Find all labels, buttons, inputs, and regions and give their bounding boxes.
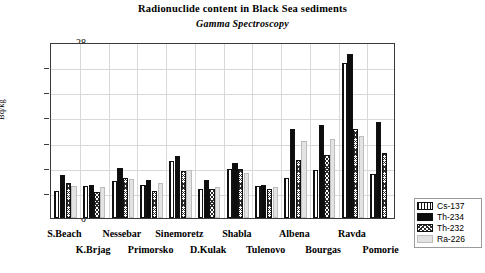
y-tick-mark <box>44 144 49 145</box>
x-tick-label-pomorie: Pomorie <box>341 244 421 255</box>
bar-group <box>281 44 310 218</box>
bar-th-232-s-beach <box>66 183 71 218</box>
bar-group <box>137 44 166 218</box>
bar-th-232-primorsko <box>152 191 157 218</box>
x-tick-label-ravda: Ravda <box>312 228 392 239</box>
bar-group <box>252 44 281 218</box>
bar-ra-226-primorsko <box>158 183 163 218</box>
chart-figure: Radionuclide content in Black Sea sedime… <box>0 0 485 273</box>
y-tick-mark <box>44 118 49 119</box>
bar-th-234-ravda <box>347 54 352 218</box>
bar-ra-226-tulenovo <box>273 187 278 218</box>
legend-label: Ra-226 <box>437 235 465 244</box>
bar-th-232-sinemoretz <box>181 171 186 218</box>
bar-ra-226-albena <box>301 141 306 218</box>
bar-cs-137-s-beach <box>54 191 59 218</box>
bar-th-232-nessebar <box>123 178 128 218</box>
bar-cs-137-bourgas <box>313 170 318 218</box>
legend-swatch-th-234 <box>417 213 433 221</box>
bar-th-234-tulenovo <box>261 185 266 218</box>
legend-swatch-ra-226 <box>417 235 433 243</box>
bar-th-232-d-kulak <box>209 189 214 218</box>
bar-cs-137-sinemoretz <box>169 161 174 218</box>
bar-th-234-s-beach <box>60 175 65 218</box>
bar-cs-137-tulenovo <box>255 186 260 218</box>
bar-group <box>166 44 195 218</box>
bar-ra-226-ravda <box>359 136 364 218</box>
y-tick-mark <box>44 93 49 94</box>
bar-th-232-albena <box>296 160 301 218</box>
bar-th-234-d-kulak <box>204 180 209 218</box>
bar-ra-226-sinemoretz <box>186 170 191 218</box>
bar-group <box>51 44 80 218</box>
bar-th-232-pomorie <box>382 153 387 218</box>
y-tick-mark <box>44 194 49 195</box>
bar-cs-137-k-brjag <box>83 186 88 218</box>
bar-cs-137-primorsko <box>140 185 145 218</box>
y-tick-mark <box>44 169 49 170</box>
chart-legend: Cs-137Th-234Th-232Ra-226 <box>414 198 482 248</box>
bar-cs-137-d-kulak <box>198 189 203 218</box>
chart-subtitle: Gamma Spectroscopy <box>0 18 485 29</box>
bar-cs-137-pomorie <box>370 174 375 218</box>
legend-item-th-232: Th-232 <box>417 223 479 233</box>
bar-group <box>367 44 396 218</box>
bar-th-234-shabla <box>232 163 237 218</box>
legend-item-ra-226: Ra-226 <box>417 234 479 244</box>
bar-ra-226-shabla <box>244 173 249 218</box>
bar-ra-226-k-brjag <box>100 187 105 218</box>
bar-cs-137-ravda <box>342 63 347 218</box>
bar-group <box>310 44 339 218</box>
bar-group <box>195 44 224 218</box>
bar-th-234-albena <box>290 129 295 218</box>
bar-th-234-primorsko <box>146 180 151 218</box>
y-tick-mark <box>44 68 49 69</box>
legend-label: Th-232 <box>437 224 464 233</box>
bar-th-234-bourgas <box>319 125 324 218</box>
bar-th-234-k-brjag <box>89 185 94 218</box>
bar-cs-137-shabla <box>227 169 232 218</box>
plot-area <box>50 43 395 219</box>
bar-group <box>224 44 253 218</box>
bar-cs-137-nessebar <box>112 181 117 218</box>
bar-th-234-sinemoretz <box>175 156 180 218</box>
legend-swatch-cs-137 <box>417 202 433 210</box>
bar-th-234-nessebar <box>117 168 122 218</box>
bar-ra-226-s-beach <box>71 186 76 218</box>
bar-ra-226-nessebar <box>129 179 134 218</box>
bar-group <box>109 44 138 218</box>
bar-group <box>80 44 109 218</box>
bar-th-232-bourgas <box>324 155 329 218</box>
legend-label: Th-234 <box>437 213 464 222</box>
bar-th-234-pomorie <box>376 122 381 218</box>
bar-ra-226-d-kulak <box>215 187 220 218</box>
bar-th-232-shabla <box>238 169 243 218</box>
y-axis-label: Bq/kg <box>0 99 6 120</box>
bar-group <box>339 44 368 218</box>
chart-title: Radionuclide content in Black Sea sedime… <box>0 3 485 14</box>
bar-th-232-ravda <box>353 129 358 218</box>
legend-item-cs-137: Cs-137 <box>417 201 479 211</box>
bar-th-232-tulenovo <box>267 189 272 218</box>
legend-item-th-234: Th-234 <box>417 212 479 222</box>
bar-ra-226-bourgas <box>330 139 335 218</box>
legend-swatch-th-232 <box>417 224 433 232</box>
bar-th-232-k-brjag <box>94 192 99 218</box>
legend-label: Cs-137 <box>437 202 464 211</box>
bar-cs-137-albena <box>284 178 289 218</box>
